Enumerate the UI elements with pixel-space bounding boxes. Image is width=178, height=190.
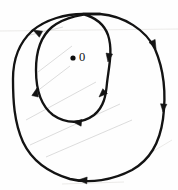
origin-point-marker <box>70 55 75 60</box>
arrowhead-inner-right-upper <box>105 53 113 62</box>
arrowheads-group <box>31 27 166 184</box>
smudge-diag-bottom <box>46 120 132 157</box>
smudge-line-bottom <box>62 182 124 184</box>
arrowhead-outer-bottom <box>78 177 87 184</box>
background-artifacts <box>0 27 178 184</box>
origin-label: 0 <box>79 51 85 64</box>
outer-loop-path <box>13 14 164 181</box>
curve-group <box>13 14 164 181</box>
figure-container: 0 <box>0 0 178 190</box>
arrowhead-outer-lower-right <box>160 104 167 113</box>
winding-curve-diagram <box>0 0 178 190</box>
smudge-line-top <box>0 29 178 31</box>
